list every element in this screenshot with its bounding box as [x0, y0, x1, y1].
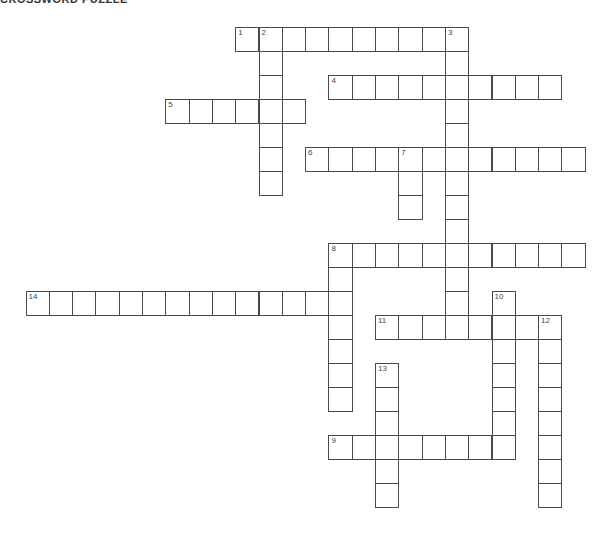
- crossword-cell[interactable]: [445, 219, 469, 244]
- crossword-cell[interactable]: [468, 243, 492, 268]
- crossword-cell[interactable]: [328, 387, 352, 412]
- crossword-cell[interactable]: [492, 315, 516, 340]
- crossword-cell[interactable]: [398, 27, 422, 52]
- crossword-cell[interactable]: [352, 27, 376, 52]
- crossword-cell[interactable]: [422, 75, 446, 100]
- crossword-cell[interactable]: [445, 291, 469, 316]
- crossword-cell[interactable]: [328, 363, 352, 388]
- crossword-cell[interactable]: 10: [492, 291, 516, 316]
- crossword-cell[interactable]: [49, 291, 73, 316]
- crossword-cell[interactable]: [328, 267, 352, 292]
- crossword-cell[interactable]: [422, 315, 446, 340]
- crossword-cell[interactable]: [561, 243, 585, 268]
- crossword-cell[interactable]: [375, 243, 399, 268]
- crossword-cell[interactable]: [538, 339, 562, 364]
- crossword-cell[interactable]: [375, 75, 399, 100]
- crossword-cell[interactable]: [352, 435, 376, 460]
- crossword-cell[interactable]: [422, 243, 446, 268]
- crossword-cell[interactable]: 1: [235, 27, 259, 52]
- crossword-cell[interactable]: 9: [328, 435, 352, 460]
- crossword-cell[interactable]: [259, 291, 283, 316]
- crossword-cell[interactable]: [515, 243, 539, 268]
- crossword-cell[interactable]: [328, 147, 352, 172]
- crossword-cell[interactable]: [282, 27, 306, 52]
- crossword-cell[interactable]: [328, 315, 352, 340]
- crossword-cell[interactable]: 8: [328, 243, 352, 268]
- crossword-cell[interactable]: [305, 27, 329, 52]
- crossword-cell[interactable]: [468, 75, 492, 100]
- crossword-cell[interactable]: [468, 315, 492, 340]
- crossword-cell[interactable]: [259, 147, 283, 172]
- crossword-cell[interactable]: [375, 387, 399, 412]
- crossword-cell[interactable]: [72, 291, 96, 316]
- crossword-cell[interactable]: [538, 363, 562, 388]
- crossword-cell[interactable]: [492, 75, 516, 100]
- crossword-cell[interactable]: [282, 291, 306, 316]
- crossword-cell[interactable]: 4: [328, 75, 352, 100]
- crossword-cell[interactable]: [165, 291, 189, 316]
- crossword-cell[interactable]: [398, 195, 422, 220]
- crossword-cell[interactable]: [305, 291, 329, 316]
- crossword-cell[interactable]: [492, 387, 516, 412]
- crossword-cell[interactable]: [328, 339, 352, 364]
- crossword-cell[interactable]: [95, 291, 119, 316]
- crossword-cell[interactable]: [375, 459, 399, 484]
- crossword-cell[interactable]: [538, 147, 562, 172]
- crossword-cell[interactable]: [492, 435, 516, 460]
- crossword-cell[interactable]: [445, 123, 469, 148]
- crossword-cell[interactable]: [515, 315, 539, 340]
- crossword-cell[interactable]: [445, 195, 469, 220]
- crossword-cell[interactable]: [352, 75, 376, 100]
- crossword-cell[interactable]: 12: [538, 315, 562, 340]
- crossword-cell[interactable]: [282, 99, 306, 124]
- crossword-cell[interactable]: [119, 291, 143, 316]
- crossword-cell[interactable]: [422, 435, 446, 460]
- crossword-cell[interactable]: [328, 27, 352, 52]
- crossword-cell[interactable]: [492, 411, 516, 436]
- crossword-cell[interactable]: 6: [305, 147, 329, 172]
- crossword-cell[interactable]: [538, 75, 562, 100]
- crossword-cell[interactable]: [538, 459, 562, 484]
- crossword-cell[interactable]: [422, 147, 446, 172]
- crossword-cell[interactable]: [538, 435, 562, 460]
- crossword-cell[interactable]: [259, 171, 283, 196]
- crossword-cell[interactable]: [468, 147, 492, 172]
- crossword-cell[interactable]: [142, 291, 166, 316]
- crossword-cell[interactable]: [259, 75, 283, 100]
- crossword-cell[interactable]: [398, 171, 422, 196]
- crossword-cell[interactable]: [375, 435, 399, 460]
- crossword-cell[interactable]: [375, 27, 399, 52]
- crossword-cell[interactable]: [445, 171, 469, 196]
- crossword-cell[interactable]: [445, 51, 469, 76]
- crossword-cell[interactable]: [375, 411, 399, 436]
- crossword-cell[interactable]: [492, 243, 516, 268]
- crossword-cell[interactable]: [445, 147, 469, 172]
- crossword-cell[interactable]: [352, 243, 376, 268]
- crossword-cell[interactable]: [492, 147, 516, 172]
- crossword-cell[interactable]: [445, 75, 469, 100]
- crossword-cell[interactable]: [398, 435, 422, 460]
- crossword-cell[interactable]: 14: [26, 291, 50, 316]
- crossword-cell[interactable]: [398, 315, 422, 340]
- crossword-cell[interactable]: [259, 51, 283, 76]
- crossword-cell[interactable]: [515, 75, 539, 100]
- crossword-cell[interactable]: [445, 435, 469, 460]
- crossword-cell[interactable]: 7: [398, 147, 422, 172]
- crossword-cell[interactable]: [235, 291, 259, 316]
- crossword-cell[interactable]: [445, 267, 469, 292]
- crossword-cell[interactable]: 11: [375, 315, 399, 340]
- crossword-cell[interactable]: [328, 291, 352, 316]
- crossword-cell[interactable]: [189, 99, 213, 124]
- crossword-cell[interactable]: 2: [259, 27, 283, 52]
- crossword-cell[interactable]: [398, 243, 422, 268]
- crossword-cell[interactable]: [538, 411, 562, 436]
- crossword-cell[interactable]: [375, 147, 399, 172]
- crossword-cell[interactable]: [189, 291, 213, 316]
- crossword-cell[interactable]: [259, 99, 283, 124]
- crossword-cell[interactable]: [398, 75, 422, 100]
- crossword-cell[interactable]: [468, 435, 492, 460]
- crossword-cell[interactable]: [212, 99, 236, 124]
- crossword-cell[interactable]: [212, 291, 236, 316]
- crossword-cell[interactable]: [259, 123, 283, 148]
- crossword-cell[interactable]: [538, 243, 562, 268]
